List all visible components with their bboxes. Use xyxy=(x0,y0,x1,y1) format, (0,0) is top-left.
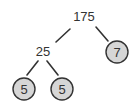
node-25: 25 xyxy=(36,44,50,59)
prime-node-5-right: 5 xyxy=(51,78,73,100)
prime-label: 7 xyxy=(113,45,120,60)
edge-25-to-5-right xyxy=(47,61,58,75)
prime-label: 5 xyxy=(20,82,27,97)
prime-node-5-left: 5 xyxy=(13,78,35,100)
edge-25-to-5-left xyxy=(27,61,38,75)
prime-label: 5 xyxy=(58,82,65,97)
edge-175-to-7 xyxy=(96,27,108,41)
edge-175-to-25 xyxy=(56,29,70,42)
node-root-175: 175 xyxy=(73,9,95,24)
prime-node-7: 7 xyxy=(106,41,128,63)
factor-tree-diagram: 175 25 7 5 5 xyxy=(0,0,132,109)
